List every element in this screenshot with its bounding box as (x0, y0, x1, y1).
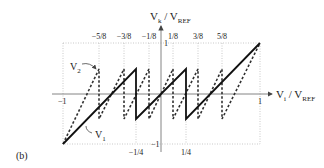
tick-neg-1-8: −1/8 (142, 32, 157, 41)
tick-5-8: 5/8 (217, 32, 227, 41)
tick-1-8: 1/8 (168, 32, 178, 41)
v1-leader (86, 126, 92, 133)
tick-1-4: 1/4 (181, 148, 191, 157)
tick-neg-1-4: −1/4 (129, 148, 144, 157)
x-axis-label: Vi / VREF (276, 88, 315, 103)
tick-neg-3-8: −3/8 (117, 32, 132, 41)
y-axis-label: Vk / VREF (150, 10, 191, 25)
y-tick-bottom: −1 (151, 140, 160, 149)
v1-label: V1 (95, 129, 106, 143)
v2-leader (82, 64, 96, 69)
x-tick-right: 1 (258, 97, 262, 106)
transfer-function-diagram: Vk / VREF Vi / VREF −5/8 −3/8 −1/8 1/8 3… (0, 0, 324, 168)
v2-label: V2 (70, 61, 81, 75)
top-tick-labels: −5/8 −3/8 −1/8 1/8 3/8 5/8 (92, 32, 227, 41)
x-tick-left: −1 (58, 97, 67, 106)
y-tick-top: 1 (164, 39, 168, 48)
tick-neg-5-8: −5/8 (92, 32, 107, 41)
v1-curve (63, 43, 260, 144)
tick-3-8: 3/8 (193, 32, 203, 41)
panel-label: (b) (16, 150, 28, 162)
